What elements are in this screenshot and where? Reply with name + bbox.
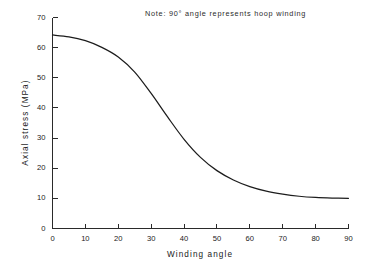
y-tick-label: 70 — [24, 13, 46, 22]
x-axis-title: Winding angle — [52, 250, 348, 259]
y-tick-label: 30 — [24, 133, 46, 142]
x-tick-label: 50 — [206, 234, 228, 243]
x-tick-label: 30 — [140, 234, 162, 243]
x-tick-label: 40 — [173, 234, 195, 243]
y-tick-label: 60 — [24, 43, 46, 52]
x-tick-label: 80 — [305, 234, 327, 243]
x-tick-label: 10 — [74, 234, 96, 243]
x-tick-label: 90 — [338, 234, 360, 243]
y-tick-label: 10 — [24, 193, 46, 202]
chart-figure: Note: 90° angle represents hoop winding … — [0, 0, 368, 270]
y-axis-title: Axial stress (MPa) — [21, 38, 30, 208]
y-tick-label: 0 — [24, 224, 46, 233]
chart-annotation-note: Note: 90° angle represents hoop winding — [145, 9, 306, 18]
y-tick-label: 40 — [24, 103, 46, 112]
x-tick-label: 20 — [107, 234, 129, 243]
x-tick-label: 60 — [239, 234, 261, 243]
x-tick-label: 70 — [272, 234, 294, 243]
y-tick-label: 50 — [24, 73, 46, 82]
x-tick-label: 0 — [42, 234, 64, 243]
plot-area — [0, 0, 368, 270]
y-tick-label: 20 — [24, 163, 46, 172]
data-curve-axial-stress — [53, 35, 349, 198]
